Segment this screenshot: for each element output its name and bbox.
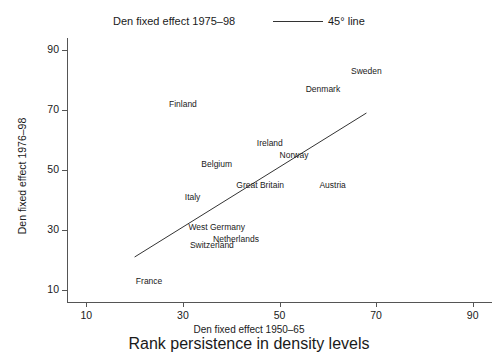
- x-tick-mark: [183, 302, 184, 307]
- legend-item-series-label: Den fixed effect 1975–98: [113, 14, 235, 28]
- x-tick-label: 70: [356, 310, 396, 321]
- scatter-point-label: Austria: [319, 180, 345, 190]
- x-tick-label: 50: [260, 310, 300, 321]
- scatter-point-label: Great Britain: [236, 180, 284, 190]
- scatter-point-label: Norway: [280, 150, 309, 160]
- legend-item-reference-line-label: 45° line: [328, 14, 365, 28]
- scatter-point-label: Ireland: [257, 138, 283, 148]
- x-tick-mark: [473, 302, 474, 307]
- y-tick-label: 90: [19, 44, 59, 55]
- scatter-point-label: Switzerland: [190, 240, 234, 250]
- y-axis-title: Den fixed effect 1976–98: [16, 96, 28, 256]
- scatter-point-label: Italy: [185, 192, 201, 202]
- x-tick-label: 10: [66, 310, 106, 321]
- y-tick-mark: [62, 110, 67, 111]
- x-tick-mark: [86, 302, 87, 307]
- x-tick-label: 30: [163, 310, 203, 321]
- y-tick-mark: [62, 230, 67, 231]
- x-tick-label: 90: [453, 310, 493, 321]
- x-tick-mark: [280, 302, 281, 307]
- scatter-point-label: Denmark: [306, 84, 340, 94]
- legend-line-swatch-icon: [273, 21, 323, 22]
- y-axis-line: [67, 38, 68, 303]
- scatter-point-label: Sweden: [351, 66, 382, 76]
- chart-root: Den fixed effect 1975–98 45° line 103050…: [0, 0, 498, 361]
- scatter-point-label: France: [136, 276, 162, 286]
- y-tick-label: 10: [19, 284, 59, 295]
- scatter-point-label: West Germany: [188, 222, 245, 232]
- chart-legend: Den fixed effect 1975–98 45° line: [0, 14, 498, 36]
- x-tick-mark: [376, 302, 377, 307]
- y-tick-mark: [62, 290, 67, 291]
- chart-title: Rank persistence in density levels: [0, 335, 498, 353]
- scatter-point-label: Finland: [169, 99, 197, 109]
- scatter-point-label: Belgium: [201, 159, 232, 169]
- y-tick-mark: [62, 170, 67, 171]
- y-tick-mark: [62, 50, 67, 51]
- x-axis-title: Den fixed effect 1950–65: [0, 324, 498, 335]
